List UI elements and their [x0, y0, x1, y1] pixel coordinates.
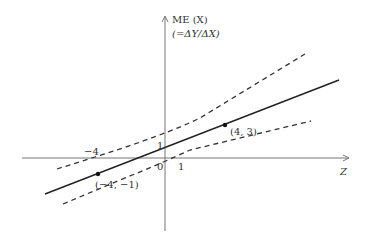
- tick-x-1: 1: [178, 161, 184, 172]
- marginal-effect-line: [45, 80, 339, 194]
- point-b-marker: [223, 123, 227, 127]
- x-axis-label: Z: [339, 166, 348, 177]
- tick-x-neg4: −4: [84, 146, 99, 157]
- point-a-marker: [96, 172, 100, 176]
- point-a-label: (−4, −1): [95, 179, 139, 190]
- tick-y-1: 1: [157, 140, 163, 151]
- marginal-effect-chart: ME (X) (=ΔY/ΔX) Z (−4, −1) (4, 3) −4 1 1…: [0, 0, 366, 244]
- y-axis-sublabel: (=ΔY/ΔX): [172, 28, 220, 39]
- y-axis-label: ME (X): [172, 14, 208, 25]
- lower-bound-line: [63, 121, 311, 204]
- point-b-label: (4, 3): [230, 126, 257, 137]
- origin-label: 0: [157, 161, 163, 172]
